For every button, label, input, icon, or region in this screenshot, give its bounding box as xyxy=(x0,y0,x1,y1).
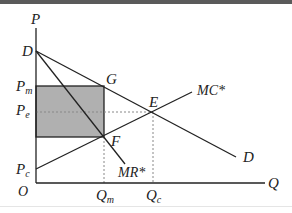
qm-label: Qm xyxy=(96,187,114,205)
point-e-label: E xyxy=(148,94,158,110)
origin-label: O xyxy=(18,184,28,199)
point-g-label: G xyxy=(106,71,117,87)
y-axis-label: P xyxy=(30,11,40,27)
mr-label: MR* xyxy=(117,165,145,180)
qc-label: Qc xyxy=(146,187,162,205)
pc-label: Pc xyxy=(15,161,30,179)
pe-label: Pe xyxy=(15,102,30,120)
mc-label: MC* xyxy=(196,83,225,98)
pm-label: Pm xyxy=(15,78,32,96)
point-f-label: F xyxy=(110,133,121,149)
bottom-border xyxy=(0,206,292,207)
x-axis-label: Q xyxy=(268,175,279,191)
demand-label: D xyxy=(242,149,254,165)
monopoly-diagram: P Q O D G E F MC* MR* D Pm Pe Pc Qm Qc xyxy=(0,0,292,213)
point-d-label: D xyxy=(21,43,33,59)
